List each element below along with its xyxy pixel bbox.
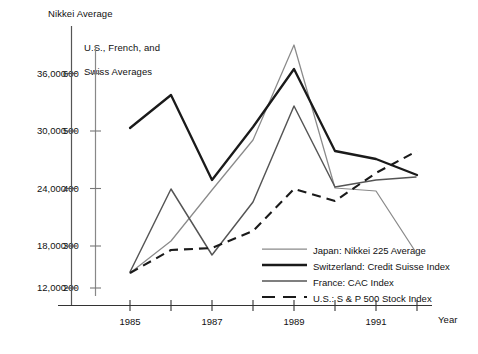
series-line-us [130, 151, 417, 273]
line-chart [0, 0, 478, 354]
series-line-switzerland [130, 69, 417, 180]
series-line-france [130, 106, 416, 272]
